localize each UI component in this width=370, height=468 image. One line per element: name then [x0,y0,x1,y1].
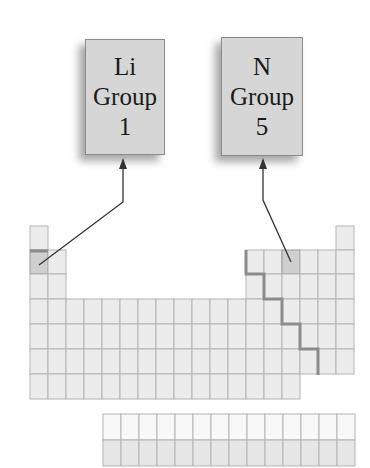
table-cell [264,274,282,299]
table-cell [156,374,174,399]
table-cell [336,299,354,324]
f-block-cell [103,414,121,440]
f-block-cell [301,414,319,440]
f-block-cell [121,414,139,440]
table-cell [300,349,318,374]
f-block-cell [229,440,247,466]
f-block-cell [247,440,265,466]
table-cell [48,250,66,274]
f-block-cell [301,440,319,466]
table-cell [192,349,210,374]
table-cell [66,374,84,399]
f-block-cell [319,414,337,440]
table-cell [102,374,120,399]
table-cell [48,299,66,324]
table-cell [192,324,210,349]
table-cell [48,324,66,349]
table-cell [102,349,120,374]
table-cell [336,349,354,374]
f-block-cell [229,414,247,440]
table-cell [318,349,336,374]
table-cell [48,349,66,374]
table-cell [102,324,120,349]
table-cell [264,250,282,274]
periodic-table [0,0,370,468]
table-cell [192,299,210,324]
table-cell [246,274,264,299]
arrowhead-icon [119,158,127,169]
f-block-cell [247,414,265,440]
f-block-cell [121,440,139,466]
table-cell [30,349,48,374]
table-cell [228,349,246,374]
table-cell [30,274,48,299]
table-cell [102,299,120,324]
table-cell [192,374,210,399]
table-cell [282,374,300,399]
f-block-cell [319,440,337,466]
table-cell [318,274,336,299]
f-block-cell [139,414,157,440]
table-cell [336,324,354,349]
table-cell [138,299,156,324]
table-cell [30,226,48,250]
table-cell [66,349,84,374]
table-cell [156,349,174,374]
table-cell [282,324,300,349]
table-cell [264,299,282,324]
n-arrow [263,160,291,262]
table-cell [138,324,156,349]
table-cell [138,374,156,399]
table-cell [246,374,264,399]
table-cell [300,299,318,324]
table-cell [84,374,102,399]
table-cell [228,324,246,349]
table-cell [282,274,300,299]
highlighted-cell [30,250,48,274]
table-cell [228,299,246,324]
table-cell [318,299,336,324]
table-cell [318,324,336,349]
f-block-cell [337,414,355,440]
f-block-cell [175,440,193,466]
table-cell [210,324,228,349]
table-cell [174,324,192,349]
f-block-cell [265,414,283,440]
table-cell [30,324,48,349]
table-cell [138,349,156,374]
f-block-cell [193,414,211,440]
li-arrow [39,160,123,265]
table-cell [210,349,228,374]
table-cell [246,250,264,274]
table-cell [30,374,48,399]
table-cell [174,299,192,324]
table-cell [264,374,282,399]
table-cell [30,299,48,324]
table-cell [66,299,84,324]
f-block-cell [139,440,157,466]
table-cell [300,324,318,349]
table-cell [84,299,102,324]
table-cell [318,250,336,274]
f-block-cell [103,440,121,466]
f-block-cell [211,414,229,440]
table-cell [336,250,354,274]
f-block-cell [283,440,301,466]
table-cell [336,226,354,250]
table-cell [282,349,300,374]
table-cell [174,374,192,399]
table-cell [210,299,228,324]
table-cell [282,299,300,324]
table-cell [66,324,84,349]
table-cell [246,349,264,374]
table-cell [120,299,138,324]
table-cell [120,349,138,374]
f-block-cell [175,414,193,440]
table-cell [264,349,282,374]
table-cell [246,299,264,324]
f-block-cell [283,414,301,440]
table-cell [48,374,66,399]
f-block-cell [211,440,229,466]
table-cell [264,324,282,349]
table-cell [156,299,174,324]
